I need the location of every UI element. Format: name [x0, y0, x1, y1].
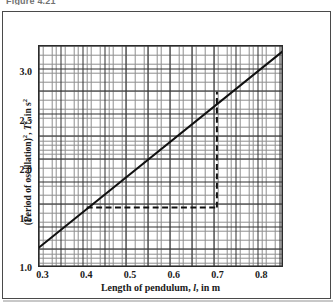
chart-figure: 0.30.40.50.60.70.8 1.01.52.02.53.0 Lengt…	[0, 11, 335, 299]
figure-frame-shadow	[3, 300, 333, 302]
data-line-0	[39, 52, 282, 248]
x-tick-label: 0.6	[167, 269, 180, 280]
y-tick-label: 1.0	[6, 262, 32, 273]
plot-svg	[39, 46, 282, 266]
figure-caption: Figure 4.21	[6, 0, 56, 5]
annotation-layer	[87, 92, 217, 208]
plot-area	[38, 45, 283, 267]
x-tick-label: 0.4	[80, 269, 93, 280]
data-series-layer	[39, 52, 282, 248]
x-tick-label: 0.7	[211, 269, 224, 280]
x-tick-label: 0.3	[36, 269, 49, 280]
y-axis-label: (Period of oscillation)2, T2, in s2	[21, 67, 33, 257]
x-tick-label: 0.8	[255, 269, 268, 280]
x-axis-label: Length of pendulum, l, in m	[38, 282, 283, 293]
x-tick-label: 0.5	[124, 269, 137, 280]
figure-page: Figure 4.21 0.30.40.50.60.70.8 1.01.52.0…	[0, 0, 335, 306]
